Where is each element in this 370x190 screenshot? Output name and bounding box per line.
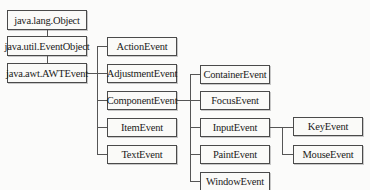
- class-hierarchy-diagram: java.lang.Object java.util.EventObject j…: [0, 0, 370, 190]
- connector-componentevent-out: [177, 100, 190, 101]
- connector-to-componentevent: [97, 100, 107, 101]
- connector-eventobject-awtevent: [47, 56, 48, 63]
- node-componentevent: ComponentEvent: [107, 91, 177, 110]
- node-itemevent: ItemEvent: [107, 118, 177, 137]
- node-actionevent: ActionEvent: [107, 37, 177, 56]
- connector-inputevent-out: [270, 127, 282, 128]
- node-textevent: TextEvent: [107, 145, 177, 164]
- connector-inputevent-trunk: [282, 127, 283, 155]
- connector-to-actionevent: [97, 46, 107, 47]
- connector-to-adjustmentevent: [97, 73, 107, 74]
- connector-to-mouseevent: [282, 154, 293, 155]
- connector-to-inputevent: [190, 127, 200, 128]
- node-inputevent: InputEvent: [200, 118, 270, 137]
- connector-to-textevent: [97, 154, 107, 155]
- node-mouseevent: MouseEvent: [293, 145, 363, 164]
- connector-awtevent-out: [87, 73, 97, 74]
- node-focusevent: FocusEvent: [200, 91, 270, 110]
- node-paintevent: PaintEvent: [200, 145, 270, 164]
- connector-componentevent-trunk: [190, 74, 191, 182]
- connector-to-focusevent: [190, 100, 200, 101]
- connector-to-windowevent: [190, 181, 200, 182]
- node-java-util-eventobject: java.util.EventObject: [7, 36, 87, 56]
- node-keyevent: KeyEvent: [293, 117, 363, 136]
- connector-to-itemevent: [97, 127, 107, 128]
- connector-to-paintevent: [190, 154, 200, 155]
- connector-to-containerevent: [190, 74, 200, 75]
- node-containerevent: ContainerEvent: [200, 65, 270, 84]
- node-adjustmentevent: AdjustmentEvent: [107, 64, 177, 83]
- node-windowevent: WindowEvent: [200, 172, 270, 190]
- node-java-awt-awtevent: java.awt.AWTEvent: [7, 63, 87, 83]
- connector-to-keyevent: [282, 127, 293, 128]
- node-java-lang-object: java.lang.Object: [7, 10, 87, 30]
